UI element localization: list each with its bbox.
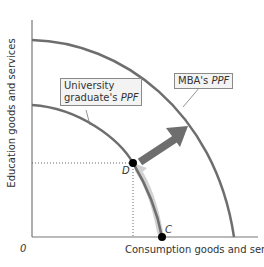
y-axis-label: Education goods and services xyxy=(6,38,20,188)
mba-ppf-label-prefix: MBA's xyxy=(178,75,211,86)
origin-label: 0 xyxy=(20,243,26,254)
ug-ppf-label-prefix: graduate's xyxy=(64,92,121,103)
mba-ppf-leader-line xyxy=(183,87,200,107)
ppf-chart xyxy=(0,0,264,267)
mba-ppf-label: MBA's PPF xyxy=(174,73,233,89)
point-d-label: D xyxy=(122,165,130,176)
ug-ppf-label-line1: University xyxy=(64,80,138,92)
x-axis-label: Consumption goods and services xyxy=(125,244,264,255)
mba-ppf-label-italic: PPF xyxy=(211,75,229,86)
ppf-shift-arrow xyxy=(140,126,188,162)
point-c-label: C xyxy=(165,224,172,235)
point-d xyxy=(129,159,137,167)
mba-ppf-curve xyxy=(32,40,234,237)
university-graduate-ppf-label: University graduate's PPF xyxy=(60,78,142,106)
ug-ppf-label-line2: graduate's PPF xyxy=(64,92,138,104)
ug-ppf-label-italic: PPF xyxy=(121,92,139,103)
